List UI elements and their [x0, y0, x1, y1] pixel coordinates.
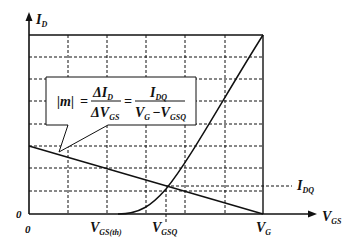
y-origin-label: 0 — [16, 208, 22, 220]
formula-lhs: |m| — [57, 94, 74, 109]
tick-label-vgs-th: VGS(th) — [90, 220, 122, 237]
transfer-characteristic-diagram: ID VGS 0 0 VGS(th) VGSQ VG IDQ |m| = ΔID… — [0, 0, 353, 249]
tick-label-vgsq: VGSQ — [152, 220, 178, 237]
y-axis-label: ID — [35, 12, 47, 29]
y-axis-arrow-icon — [26, 12, 33, 21]
tick-label-vg: VG — [256, 220, 271, 237]
idq-label: IDQ — [296, 178, 314, 195]
x-origin-label: 0 — [25, 223, 31, 235]
x-axis-label: VGS — [322, 209, 342, 226]
formula-eq2: = — [124, 94, 132, 109]
formula-eq1: = — [80, 94, 88, 109]
x-axis-arrow-icon — [308, 211, 317, 218]
